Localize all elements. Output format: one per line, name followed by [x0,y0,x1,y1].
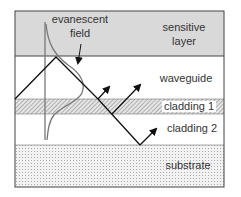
cladding2-label: cladding 2 [167,122,217,134]
substrate-label: substrate [165,159,210,171]
sensitive-label-line2: layer [172,35,196,47]
sensitive-layer [15,11,224,56]
field-label-line1: evanescent [52,13,108,25]
cladding1-label: cladding 1 [164,100,214,112]
waveguide-label: waveguide [159,72,213,84]
sensitive-label-line1: sensitive [163,21,206,33]
waveguide-diagram: evanescent field sensitive layer wavegui… [0,0,241,197]
field-label-line2: field [70,27,90,39]
